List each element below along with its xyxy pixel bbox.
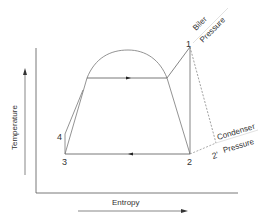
- x-axis-label: Entropy: [112, 198, 140, 207]
- entropy-arrowhead-icon: [181, 209, 188, 213]
- point-label-4: 4: [57, 132, 62, 142]
- y-axis-label: Temperature: [10, 105, 19, 150]
- actual-expansion-line-1-2prime: [190, 47, 216, 143]
- evaporation-direction-arrow-icon: [126, 77, 131, 80]
- ts-diagram: 1 2 3 4 2' Biler Pressure Condenser Pres…: [0, 0, 275, 219]
- point-label-2prime: 2': [211, 149, 220, 161]
- point-label-1: 1: [186, 39, 191, 49]
- temperature-arrowhead-icon: [23, 68, 27, 75]
- point-label-3: 3: [62, 157, 67, 167]
- condensation-direction-arrow-icon: [128, 153, 133, 156]
- superheat-line: [167, 47, 190, 78]
- saturation-dome: [65, 50, 190, 154]
- heating-line-4: [65, 90, 83, 134]
- point-label-2: 2: [187, 157, 192, 167]
